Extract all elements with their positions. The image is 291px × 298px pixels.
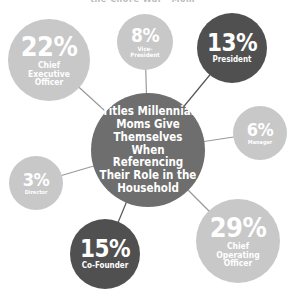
bubble-vice-president: 8% Vice-President <box>117 14 173 70</box>
bubble-label: President <box>212 56 251 64</box>
center-title: Titles Millennial Moms Give Themselves W… <box>91 105 205 195</box>
bubble-label: Chief Executive Officer <box>18 61 80 88</box>
bubble-manager: 6% Manager <box>233 106 287 160</box>
bubble-president: 13% President <box>197 13 267 83</box>
bubble-label: Co-Founder <box>82 262 129 270</box>
bubble-chief-operating-officer: 29% Chief Operating Officer <box>196 199 280 283</box>
bubble-percent: 15% <box>80 237 130 261</box>
bubble-director: 3% Director <box>9 156 63 210</box>
bubble-percent: 29% <box>210 214 267 241</box>
bubble-label: Vice-President <box>128 46 162 59</box>
bubble-label: Manager <box>248 140 272 146</box>
bubble-percent: 6% <box>247 121 274 139</box>
bubble-percent: 13% <box>207 31 257 55</box>
bubble-chief-executive-officer: 22% Chief Executive Officer <box>8 19 90 101</box>
bubble-percent: 22% <box>21 33 78 60</box>
center-title-bubble: Titles Millennial Moms Give Themselves W… <box>91 93 205 207</box>
bubble-co-founder: 15% Co-Founder <box>70 219 140 289</box>
bubble-label: Director <box>25 190 48 196</box>
bubble-percent: 8% <box>131 26 159 45</box>
bubble-label: Chief Operating Officer <box>206 242 270 269</box>
bubble-percent: 3% <box>23 171 50 189</box>
